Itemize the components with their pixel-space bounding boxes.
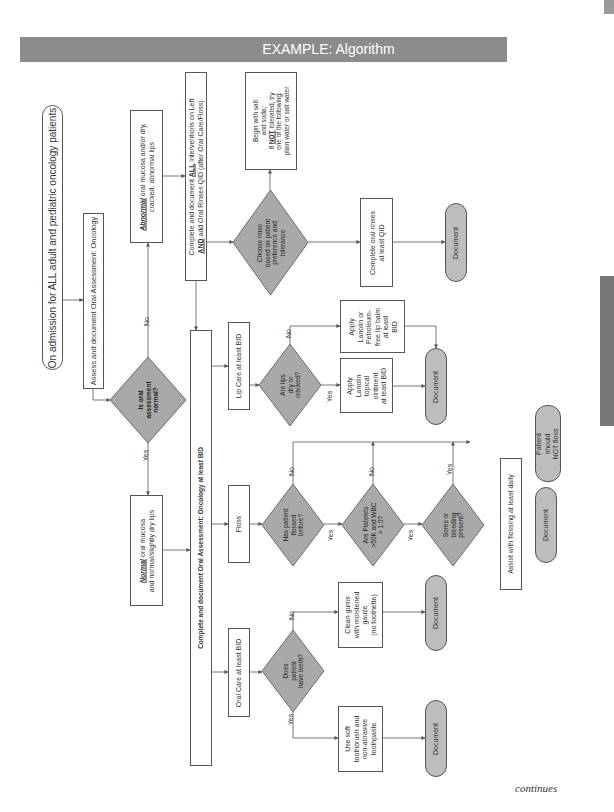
assist-text: Assist with flossing at least daily bbox=[507, 474, 516, 574]
decision-line: patient bbox=[289, 654, 297, 688]
decision-line: Sores or bbox=[442, 512, 450, 537]
complete-all-text: add Oral Rinses QID (after Oral Care/Flo… bbox=[196, 100, 203, 238]
box-line: free lip balm bbox=[373, 307, 382, 345]
box-line: one of the following: bbox=[275, 87, 283, 156]
assess-box: Assess and document Oral Assessment: Onc… bbox=[83, 213, 104, 389]
edge-label-no: No bbox=[368, 467, 375, 476]
begin-salt-box: Begin with salt and soda; If NOT tolerat… bbox=[245, 72, 297, 170]
decision-flossed: Has patient flossed before? bbox=[262, 484, 324, 566]
abnormal-box: Abnormal oral mucosa and/or dry, cracked… bbox=[130, 110, 163, 243]
edge-label-yes: Yes bbox=[326, 391, 333, 402]
box-line: non-abrasive bbox=[361, 716, 370, 763]
document-text: Document bbox=[432, 723, 441, 755]
box-line: at least bbox=[381, 307, 390, 345]
abnormal-emph: Abnormal bbox=[138, 198, 145, 231]
box-line: BID bbox=[390, 307, 399, 345]
edge-label-yes: Yes bbox=[446, 464, 453, 475]
box-line: Complete oral rinses bbox=[368, 210, 377, 274]
oral-care-box: Oral Care at least BID bbox=[228, 628, 250, 717]
document-rinses-terminal: Document bbox=[445, 203, 467, 282]
box-line: with moistened bbox=[352, 592, 361, 639]
box-line: Clean gums bbox=[344, 592, 353, 639]
decision-lips: Are lips dry or cracked? bbox=[259, 344, 321, 426]
box-line: Patient bbox=[535, 428, 544, 459]
box-line: Lanolin bbox=[354, 367, 363, 403]
normal-text: oral mucosa bbox=[138, 518, 145, 558]
complete-bid-bar: Complete and document Oral Assessment: O… bbox=[190, 330, 212, 766]
lip-care-box: Lip Care at least BID bbox=[228, 322, 250, 410]
clean-gums-box: Clean gums with moistened gauze (no toot… bbox=[338, 582, 383, 648]
box-line: toothpaste bbox=[369, 716, 378, 763]
document-gums-terminal: Document bbox=[425, 575, 447, 651]
decision-line: based on patient bbox=[263, 218, 271, 266]
box-line: Petroleum- bbox=[364, 307, 373, 345]
decision-oral-normal: Is oral assessment normal? bbox=[110, 357, 186, 443]
complete-all-emph: AND bbox=[196, 238, 203, 253]
decision-line: >50K and WBC bbox=[369, 503, 377, 548]
edge-label-yes: Yes bbox=[142, 450, 149, 461]
floss-box: Floss bbox=[228, 485, 250, 563]
decision-line: tolerance bbox=[278, 218, 286, 266]
no-floss-terminal: Patient should NOT floss bbox=[535, 405, 561, 482]
abnormal-text: oral mucosa and/or dry, bbox=[138, 123, 145, 198]
normal-emph: Normal bbox=[138, 558, 145, 582]
box-line: toothbrush and bbox=[352, 716, 361, 763]
box-line: tolerated, try bbox=[267, 92, 274, 130]
box-line: Lanolin or bbox=[356, 307, 365, 345]
decision-line: Are Platelets bbox=[362, 503, 370, 548]
lip-yes-box: Apply Lanolin topical ointment at least … bbox=[340, 358, 393, 413]
document-floss-terminal: Document bbox=[535, 487, 557, 563]
document-text: Document bbox=[432, 371, 441, 403]
edge-label-no: No bbox=[143, 317, 150, 326]
box-line: ointment bbox=[371, 367, 380, 403]
normal-text: and normal/slightly dry lips bbox=[147, 509, 156, 591]
complete-all-emph: ALL bbox=[188, 163, 195, 177]
box-line: Apply bbox=[347, 307, 356, 345]
decision-line: flossed bbox=[289, 509, 297, 542]
assist-floss-box: Assist with flossing at least daily bbox=[500, 458, 522, 590]
document-text: Document bbox=[452, 227, 461, 259]
box-line: Apply bbox=[345, 367, 354, 403]
edge-label-yes: Yes bbox=[287, 714, 294, 725]
oral-care-text: Oral Care at least BID bbox=[235, 638, 244, 706]
normal-box: Normal oral mucosa and normal/slightly d… bbox=[130, 495, 163, 606]
lip-no-box: Apply Lanolin or Petroleum- free lip bal… bbox=[340, 300, 405, 353]
decision-line: Choose rinse bbox=[256, 218, 264, 266]
decision-line: normal? bbox=[152, 381, 160, 418]
soft-brush-box: Use soft toothbrush and non-abrasive too… bbox=[338, 706, 383, 772]
box-line: Begin with salt bbox=[252, 87, 260, 156]
document-text: Document bbox=[432, 597, 441, 629]
document-brush-terminal: Document bbox=[425, 700, 447, 777]
decision-line: before? bbox=[297, 509, 305, 542]
decision-line: Does bbox=[282, 654, 290, 688]
decision-platelets: Are Platelets >50K and WBC > 1.0? bbox=[342, 484, 404, 566]
document-lips-terminal: Document bbox=[425, 348, 447, 425]
box-line: If bbox=[267, 144, 274, 149]
decision-line: bleeding bbox=[449, 512, 457, 537]
box-emph: NOT bbox=[267, 130, 274, 144]
start-terminal: On admission for ALL adult and pediatric… bbox=[42, 105, 63, 370]
complete-bid-text: Complete and document Oral Assessment: O… bbox=[197, 447, 206, 649]
box-line: at least QID bbox=[377, 210, 386, 274]
box-line: at least BID bbox=[379, 367, 388, 403]
start-text: On admission for ALL adult and pediatric… bbox=[47, 107, 59, 367]
box-line: (no toothette) bbox=[369, 592, 378, 639]
edge-label-yes: Yes bbox=[327, 530, 334, 541]
edge-label-no: No bbox=[288, 467, 295, 476]
decision-line: assessment bbox=[144, 381, 152, 418]
box-line: should bbox=[544, 428, 553, 459]
decision-line: cracked? bbox=[294, 372, 302, 398]
assess-text: Assess and document Oral Assessment: Onc… bbox=[89, 217, 98, 385]
box-line: gauze bbox=[361, 592, 370, 639]
decision-teeth: Does patient have teeth? bbox=[262, 630, 324, 712]
edge-label-no: No bbox=[288, 611, 295, 620]
decision-line: have teeth? bbox=[297, 654, 305, 688]
decision-line: dry or bbox=[286, 372, 294, 398]
decision-line: present? bbox=[457, 512, 465, 537]
decision-choose-rinse: Choose rinse based on patient preference… bbox=[233, 190, 308, 295]
complete-all-box: Complete and document ALL interventions … bbox=[185, 72, 207, 281]
complete-all-text: interventions on Left bbox=[188, 98, 195, 163]
complete-all-text: Complete and document bbox=[188, 177, 195, 255]
box-line: plain water or salt water bbox=[283, 87, 291, 156]
decision-line: preference and bbox=[271, 218, 279, 266]
